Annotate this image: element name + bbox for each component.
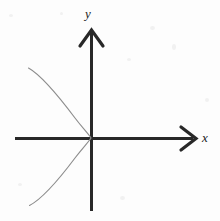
figure-canvas: y x — [0, 0, 220, 221]
x-axis-label: x — [202, 131, 208, 144]
y-axis-label: y — [85, 7, 91, 20]
coordinate-plot-svg — [0, 0, 220, 221]
parabola-curve — [29, 68, 92, 206]
